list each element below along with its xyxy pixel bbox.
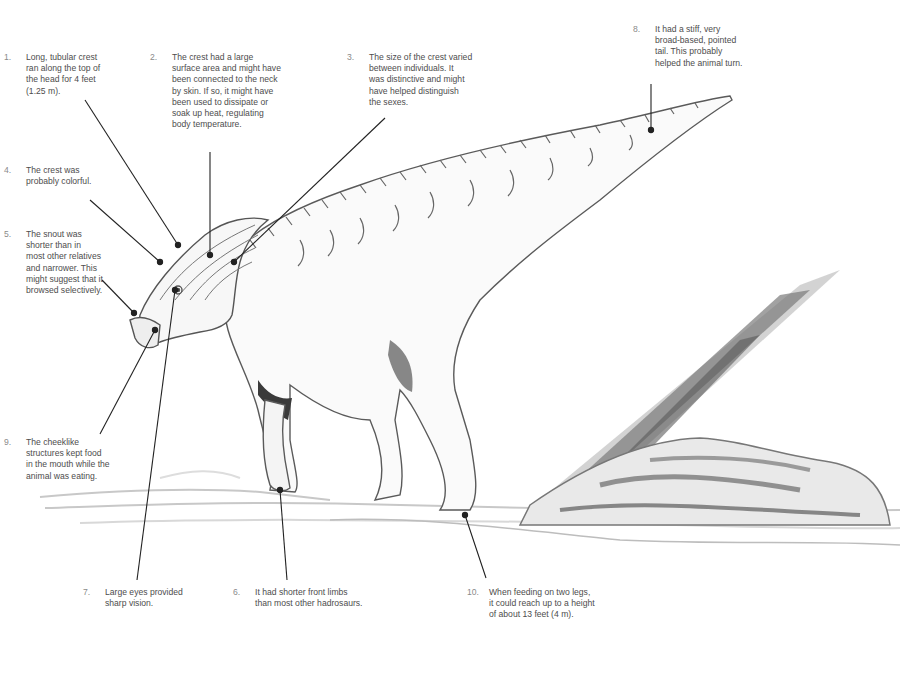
annotation-text: The crest was probably colorful. — [26, 165, 91, 187]
annotation-text: The snout was shorter than in most other… — [26, 229, 103, 296]
annotation-number: 6. — [233, 587, 255, 609]
annotation-text: When feeding on two legs, it could reach… — [489, 587, 595, 621]
annotation-number: 5. — [4, 229, 26, 296]
annotation-text: It had shorter front limbs than most oth… — [255, 587, 362, 609]
annotation-number: 1. — [4, 52, 26, 97]
annotation-2: 2. The crest had a large surface area an… — [150, 52, 320, 130]
annotation-text: The cheeklike structures kept food in th… — [26, 437, 110, 482]
annotation-1: 1. Long, tubular crest ran along the top… — [4, 52, 134, 97]
annotation-8: 8. It had a stiff, very broad-based, poi… — [633, 24, 783, 69]
annotation-text: Large eyes provided sharp vision. — [105, 587, 183, 609]
annotation-3: 3. The size of the crest varied between … — [347, 52, 507, 108]
annotation-number: 10. — [467, 587, 489, 621]
annotation-10: 10. When feeding on two legs, it could r… — [467, 587, 617, 621]
annotation-number: 8. — [633, 24, 655, 69]
annotation-number: 7. — [83, 587, 105, 609]
annotation-number: 3. — [347, 52, 369, 108]
annotation-7: 7. Large eyes provided sharp vision. — [83, 587, 213, 609]
annotation-number: 4. — [4, 165, 26, 187]
annotation-9: 9. The cheeklike structures kept food in… — [4, 437, 134, 482]
annotation-text: The crest had a large surface area and m… — [172, 52, 281, 130]
dinosaur-diagram: 1. Long, tubular crest ran along the top… — [0, 0, 905, 682]
annotation-4: 4. The crest was probably colorful. — [4, 165, 134, 187]
annotation-number: 9. — [4, 437, 26, 482]
annotation-text: Long, tubular crest ran along the top of… — [26, 52, 100, 97]
annotation-text: It had a stiff, very broad-based, pointe… — [655, 24, 742, 69]
annotation-number: 2. — [150, 52, 172, 130]
rock-formation — [520, 270, 890, 525]
annotation-5: 5. The snout was shorter than in most ot… — [4, 229, 134, 296]
annotation-6: 6. It had shorter front limbs than most … — [233, 587, 413, 609]
annotation-text: The size of the crest varied between ind… — [369, 52, 472, 108]
